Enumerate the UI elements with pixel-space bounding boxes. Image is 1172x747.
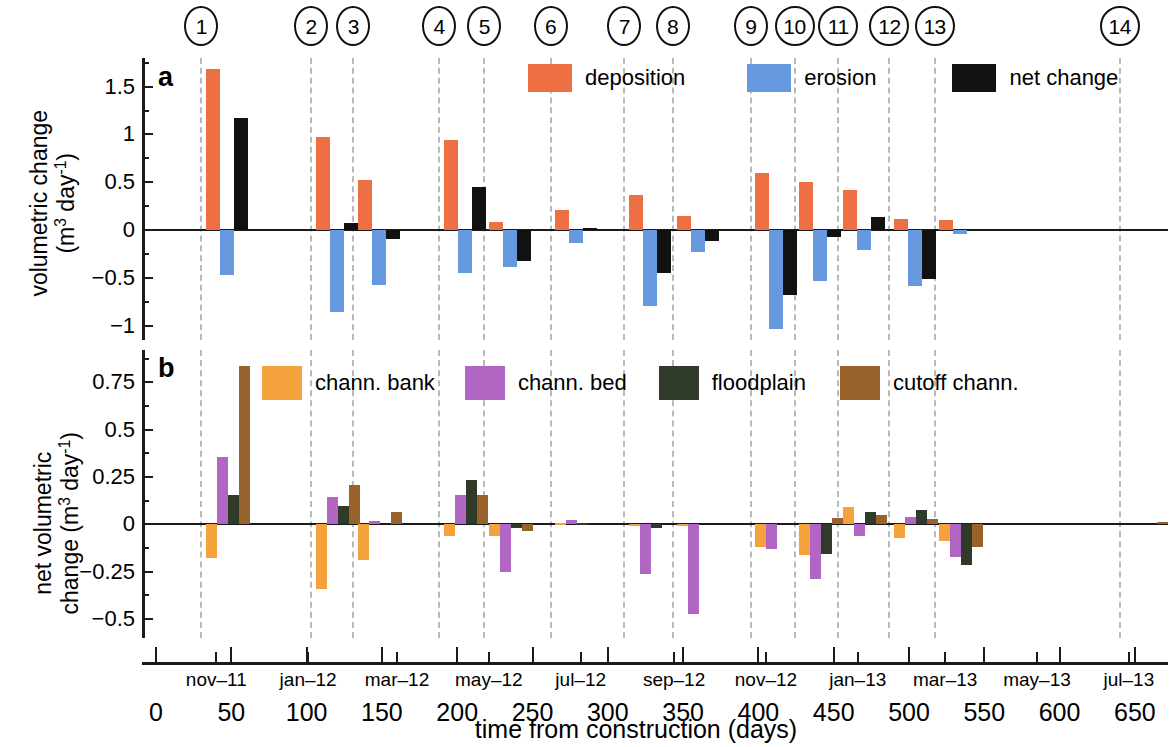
panel-b-legend-item-chann-bed: chann. bed [465,366,627,400]
bar-panel-b-g7-chann-bank [629,524,640,526]
survey-callout-row: 1234567891011121314 [0,0,1172,52]
survey-callout-1: 1 [184,6,218,46]
bar-panel-b-g2-chann-bank [316,524,327,588]
survey-callout-7: 7 [607,6,641,46]
bar-panel-b-g10-chann-bank [799,524,810,554]
survey-callout-9: 9 [734,6,768,46]
bar-panel-b-g13-chann-bed [950,524,961,556]
bar-panel-a-g7-net-change [657,230,671,273]
panel-a-y-tick-label: −1 [110,315,135,337]
legend-swatch-icon [747,64,791,92]
bar-panel-b-g13-floodplain [961,524,972,565]
panel-b-y-tick-label: −0.5 [92,608,135,630]
bar-panel-b-g5-chann-bank [489,524,500,535]
bar-panel-a-g7-erosion [643,230,657,306]
survey-callout-12: 12 [869,6,909,46]
bar-panel-b-g4-cutoff-chann- [477,495,488,524]
x-axis-line [142,662,1168,665]
panel-b-y-tick-minor [142,594,149,596]
bar-panel-b-g11-floodplain [865,512,876,524]
bar-panel-a-g10-net-change [827,230,841,237]
panel-a-y-axis-title: volumetric change (m3 day-1) [26,93,81,313]
x-axis-tick-month [1128,652,1130,663]
bar-panel-b-g3-cutoff-chann- [391,512,402,524]
panel-b-y-axis-title-line2: change (m3 day-1) [56,408,84,638]
panel-a-legend-label: erosion [804,67,876,89]
survey-callout-5: 5 [467,6,501,46]
x-axis-tick-month [307,652,309,663]
bar-panel-b-g6-chann-bank [555,523,566,525]
bar-panel-b-g5-cutoff-chann- [522,524,533,531]
bar-panel-b-g10-chann-bed [810,524,821,579]
bar-panel-a-g11-deposition [843,190,857,230]
panel-b-y-tick-mark [142,476,153,478]
survey-callout-3: 3 [336,6,370,46]
panel-b-survey-line-1 [200,350,202,638]
survey-callout-2: 2 [294,6,328,46]
bar-panel-b-g5-floodplain [511,524,522,528]
bar-panel-a-g13-deposition [939,220,953,231]
panel-a-y-tick-minor [142,205,149,207]
panel-b-y-tick-minor [142,547,149,549]
figure-container: 1234567891011121314 a −1−0.500.511.5 vol… [0,0,1172,747]
x-axis-month-label: jul–12 [555,670,606,689]
bar-panel-b-g14-cutoff-chann- [1157,522,1168,524]
bar-panel-b-g12-chann-bed [905,517,916,525]
panel-a-y-tick-label: 0.5 [104,171,135,193]
legend-swatch-icon [840,366,880,400]
panel-a-survey-line-4 [438,58,440,340]
panel-a-y-tick-mark [142,181,153,183]
bar-panel-a-g12-net-change [922,230,936,279]
x-axis-tick-month [396,652,398,663]
bar-panel-a-g5-erosion [503,230,517,267]
bar-panel-a-g4-erosion [458,230,472,273]
bar-panel-a-g6-net-change [583,228,597,230]
x-axis-tick-month [765,652,767,663]
panel-a-y-axis-title-line1: volumetric change [26,93,52,313]
bar-panel-b-g4-floodplain [466,480,477,525]
panel-b-y-tick-label: −0.25 [79,561,135,583]
legend-swatch-icon [952,64,996,92]
panel-b-y-axis-title-line1: net volumetric [30,408,56,638]
panel-b-survey-line-14 [1119,350,1121,638]
bar-panel-b-g4-chann-bed [455,495,466,524]
bar-panel-a-g4-deposition [444,140,458,230]
x-axis-tick-day-50 [230,647,232,663]
x-axis-day-label: 100 [286,700,328,725]
x-axis-month-label: nov–12 [735,670,797,689]
x-axis-tick-day-300 [607,647,609,663]
bar-panel-a-g3-net-change [386,230,400,239]
bar-panel-b-g1-floodplain [228,495,239,524]
x-axis-day-label: 150 [361,700,403,725]
panel-a-y-tick-minor [142,301,149,303]
panel-a-survey-line-7 [623,58,625,340]
panel-a-y-axis [142,58,145,340]
x-axis-tick-day-0 [155,647,157,663]
bar-panel-a-g12-deposition [894,219,908,230]
panel-a-y-tick-mark [142,325,153,327]
panel-a-survey-line-13 [934,58,936,340]
panel-a-survey-line-8 [672,58,674,340]
x-axis-day-label: 450 [813,700,855,725]
panel-b-y-tick-label: 0.5 [104,419,135,441]
panel-a-y-tick-minor [142,110,149,112]
panel-a-legend: depositionerosionnet change [528,64,1118,92]
legend-swatch-icon [528,64,572,92]
bar-panel-b-g2-floodplain [338,506,349,524]
bar-panel-a-g8-net-change [705,230,719,241]
bar-panel-b-g8-chann-bed [688,524,699,614]
bar-panel-a-g5-net-change [517,230,531,261]
bar-panel-b-g11-chann-bed [854,524,865,535]
x-axis-tick-day-450 [833,647,835,663]
bar-panel-a-g6-erosion [569,230,583,243]
survey-callout-10: 10 [775,6,815,46]
bar-panel-a-g3-deposition [358,180,372,230]
panel-b-y-tick-mark [142,381,153,383]
panel-a-survey-line-3 [352,58,354,340]
panel-a-label: a [158,62,173,93]
x-axis-tick-day-600 [1059,647,1061,663]
panel-a-legend-label: net change [1009,67,1118,89]
x-axis-tick-day-250 [532,647,534,663]
bar-panel-b-g3-chann-bed [369,521,380,525]
bar-panel-b-g7-chann-bed [640,524,651,573]
